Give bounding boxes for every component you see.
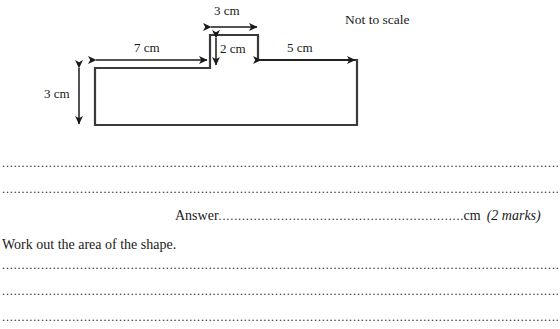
answer-area: ........................................… — [0, 145, 560, 329]
answer-label: Answer — [175, 208, 219, 224]
marks-label: (2 marks) — [487, 208, 541, 224]
not-to-scale-caption: Not to scale — [345, 13, 409, 27]
answer-dotted-line[interactable]: ........................................… — [2, 258, 558, 272]
dimension-label-right-width: 5 cm — [287, 41, 313, 54]
answer-dotted-line[interactable]: ........................................… — [2, 284, 558, 298]
answer-unit-label: cm — [464, 208, 481, 224]
answer-dotted-line[interactable]: ........................................… — [2, 310, 558, 324]
answer-input-dots[interactable]: ........................................… — [219, 209, 464, 224]
question-text: Work out the area of the shape. — [2, 237, 176, 253]
answer-dotted-line[interactable]: ........................................… — [2, 182, 558, 196]
dimension-label-body-height: 3 cm — [44, 87, 70, 100]
answer-line-row[interactable]: Answer .................................… — [175, 208, 560, 228]
dimension-label-step-height: 2 cm — [220, 42, 246, 55]
dimension-label-left-width: 7 cm — [134, 41, 160, 54]
shape-diagram: 3 cm 7 cm 2 cm 5 cm 3 cm Not to scale — [0, 0, 560, 145]
dimension-label-top-width: 3 cm — [214, 4, 240, 17]
shape-diagram-svg — [0, 0, 560, 145]
worksheet-page: 3 cm 7 cm 2 cm 5 cm 3 cm Not to scale ..… — [0, 0, 560, 329]
answer-dotted-line[interactable]: ........................................… — [2, 156, 558, 170]
